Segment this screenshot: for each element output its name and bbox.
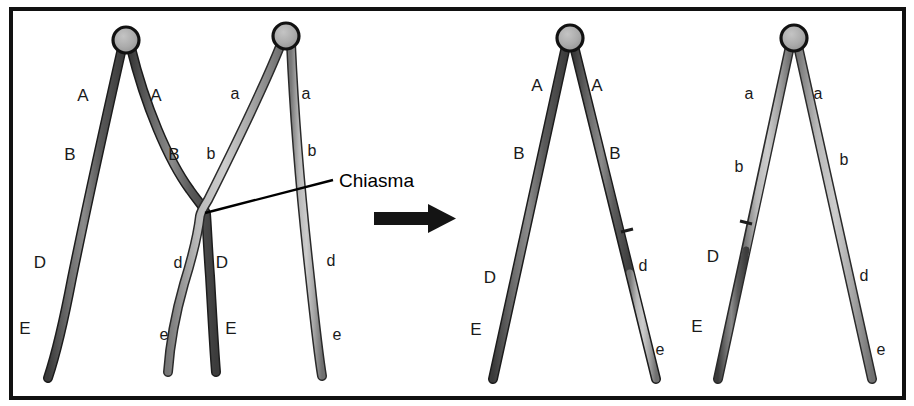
- allele-label-a: a: [302, 85, 311, 102]
- allele-label-d: d: [860, 267, 869, 284]
- allele-label-A: A: [150, 86, 162, 105]
- allele-label-d: d: [327, 252, 336, 269]
- allele-label-e: e: [160, 326, 169, 343]
- allele-label-E: E: [691, 317, 702, 336]
- allele-label-D: D: [216, 253, 228, 272]
- allele-label-D: D: [707, 247, 719, 266]
- allele-label-b: b: [735, 158, 744, 175]
- allele-label-e: e: [333, 326, 342, 343]
- allele-label-E: E: [225, 319, 236, 338]
- allele-label-e: e: [877, 341, 886, 358]
- allele-label-A: A: [591, 76, 603, 95]
- allele-label-a: a: [745, 85, 754, 102]
- centromere: [113, 27, 139, 53]
- allele-label-e: e: [656, 341, 665, 358]
- allele-label-E: E: [470, 320, 481, 339]
- allele-label-a: a: [814, 85, 823, 102]
- allele-label-a: a: [231, 85, 240, 102]
- allele-label-B: B: [609, 144, 620, 163]
- chiasma-label: Chiasma: [339, 170, 414, 191]
- allele-label-D: D: [34, 253, 46, 272]
- centromere: [273, 23, 299, 49]
- allele-label-d: d: [174, 254, 183, 271]
- allele-label-b: b: [207, 145, 216, 162]
- allele-label-B: B: [168, 145, 179, 164]
- centromere: [781, 25, 807, 51]
- allele-label-b: b: [840, 151, 849, 168]
- chiasma-figure: A B D E A B D E a b d e: [0, 0, 914, 406]
- allele-label-B: B: [513, 144, 524, 163]
- arrow-shaft: [374, 212, 436, 225]
- allele-label-B: B: [64, 145, 75, 164]
- figure-frame: [11, 9, 904, 398]
- allele-label-E: E: [19, 319, 30, 338]
- allele-label-d: d: [639, 257, 648, 274]
- allele-label-A: A: [77, 86, 89, 105]
- allele-label-b: b: [308, 142, 317, 159]
- figure-canvas: A B D E A B D E a b d e: [0, 0, 914, 406]
- allele-label-D: D: [484, 268, 496, 287]
- allele-label-A: A: [531, 76, 543, 95]
- centromere: [557, 25, 583, 51]
